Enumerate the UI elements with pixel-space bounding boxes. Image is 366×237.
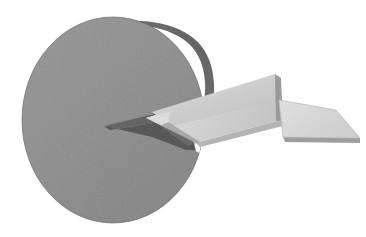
illustration-canvas: 3D grayscale rendering: slotted disc wit…: [0, 0, 366, 237]
scene-svg: [0, 0, 366, 237]
